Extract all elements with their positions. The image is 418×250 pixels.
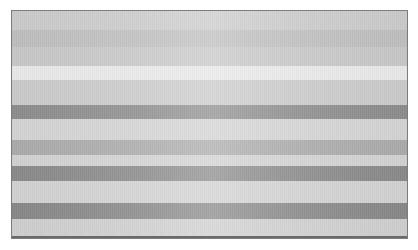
- band-1-mid-gray: [11, 30, 408, 47]
- bottom-rule: [11, 236, 408, 239]
- band-3-near-white-highlight: [11, 66, 408, 80]
- band-5-dark-gray: [11, 105, 408, 119]
- band-8-light-gray: [11, 155, 408, 166]
- band-7-mid-gray: [11, 140, 408, 155]
- grayscale-band-image: [11, 10, 408, 239]
- band-11-dark-gray: [11, 203, 408, 219]
- page-canvas: [0, 0, 418, 250]
- band-2-light-mid-gray: [11, 47, 408, 66]
- band-0-light-mid-gray: [11, 10, 408, 30]
- band-10-light-gray: [11, 181, 408, 203]
- band-4-light-mid-gray: [11, 80, 408, 105]
- band-9-dark-gray: [11, 166, 408, 181]
- band-12-light-gray: [11, 219, 408, 236]
- band-6-light-gray: [11, 119, 408, 140]
